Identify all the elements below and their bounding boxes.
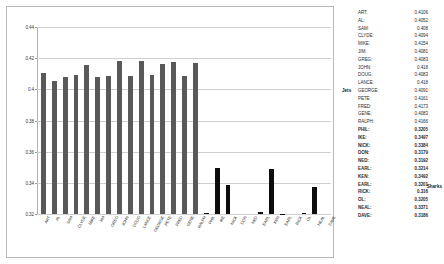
table-row-value: 0.4083 xyxy=(415,110,428,118)
x-label-slot: EARL xyxy=(256,214,267,260)
table-row-name: MIKE: xyxy=(358,40,370,48)
bar-slot xyxy=(136,27,147,214)
table-row-value: 0.418 xyxy=(417,79,428,87)
table-row: OL:0.3205 xyxy=(358,196,428,204)
table-row-value: 0.4091 xyxy=(415,87,428,95)
x-label-slot: AL xyxy=(49,214,60,260)
table-row: ART:0.4106 xyxy=(358,9,428,17)
bar xyxy=(74,75,79,214)
table-row-name: PETE: xyxy=(358,95,371,103)
table-row-name: NED: xyxy=(358,157,369,165)
table-row-value: 0.408 xyxy=(417,25,428,33)
table-row: RICK:0.316 xyxy=(358,188,428,196)
x-label-slot: DOUG xyxy=(125,214,136,260)
chart-panel: 0.440.420.40.380.360.340.32 ARTALSAMCLYD… xyxy=(0,0,340,264)
chart-plot-frame: 0.440.420.40.380.360.340.32 ARTALSAMCLYD… xyxy=(6,6,334,258)
table-row-name: IKE: xyxy=(358,134,367,142)
y-axis-tick-label: 0.32 xyxy=(25,212,34,217)
y-axis-tick-mark xyxy=(35,152,37,153)
y-axis-tick-label: 0.36 xyxy=(25,149,34,154)
bar-slot xyxy=(277,27,288,214)
x-label-slot: PETE xyxy=(158,214,169,260)
x-label-slot: GEORGE xyxy=(147,214,158,260)
x-label-slot: RICK xyxy=(288,214,299,260)
table-row: DAVE:0.3186 xyxy=(358,212,428,220)
table-row-name: DOUG: xyxy=(358,71,373,79)
table-row: PETE:0.4161 xyxy=(358,95,428,103)
table-row-name: JOHN: xyxy=(358,64,371,72)
y-axis-tick-mark xyxy=(35,27,37,28)
y-axis-tick-label: 0.38 xyxy=(25,118,34,123)
x-label-slot: JIM xyxy=(92,214,103,260)
table-row-value: 0.4173 xyxy=(415,103,428,111)
y-axis-tick-label: 0.34 xyxy=(25,180,34,185)
table-row-value: 0.316 xyxy=(417,188,428,196)
x-label-slot: FRED xyxy=(169,214,180,260)
bar-slot xyxy=(309,27,320,214)
table-row: NEAL:0.3371 xyxy=(358,204,428,212)
bar-slot xyxy=(38,27,49,214)
table-row-name: RICK: xyxy=(358,188,370,196)
bar xyxy=(63,77,68,214)
table-row-value: 0.3492 xyxy=(415,173,428,181)
table-row: NED:0.3192 xyxy=(358,157,428,165)
bar-slot xyxy=(71,27,82,214)
x-label-slot: PHIL xyxy=(201,214,212,260)
table-row: JOHN:0.418 xyxy=(358,64,428,72)
table-row: PHIL:0.3205 xyxy=(358,126,428,134)
table-row-name: GEORGE: xyxy=(358,87,379,95)
bar xyxy=(106,76,111,214)
table-row-name: DAVE: xyxy=(358,212,371,220)
y-axis-tick-mark xyxy=(35,214,37,215)
table-row: GREG:0.4083 xyxy=(358,56,428,64)
table-row: SAM:0.408 xyxy=(358,25,428,33)
table-row: JIM:0.4081 xyxy=(358,48,428,56)
bar xyxy=(182,76,187,214)
bar-series-container xyxy=(38,27,331,214)
table-row-name: KEN: xyxy=(358,173,369,181)
bar-chart-with-value-table: 0.440.420.40.380.360.340.32 ARTALSAMCLYD… xyxy=(0,0,444,264)
bar-slot xyxy=(168,27,179,214)
bar xyxy=(84,65,89,214)
table-row: GENE:0.4083 xyxy=(358,110,428,118)
table-row: IKE:0.3497 xyxy=(358,134,428,142)
table-row-name: CLYDE: xyxy=(358,32,374,40)
y-axis-tick-mark xyxy=(35,121,37,122)
y-axis-tick-label: 0.44 xyxy=(25,25,34,30)
x-label-slot: OL xyxy=(299,214,310,260)
bar-slot xyxy=(103,27,114,214)
bar xyxy=(269,169,274,215)
table-row-value: 0.4052 xyxy=(415,17,428,25)
bar-slot xyxy=(244,27,255,214)
table-row: CLYDE:0.4094 xyxy=(358,32,428,40)
bar-slot xyxy=(320,27,331,214)
bar xyxy=(226,185,231,214)
bar xyxy=(312,187,317,214)
table-row-value: 0.3371 xyxy=(415,204,428,212)
table-row-value: 0.3205 xyxy=(415,126,428,134)
bar-slot xyxy=(201,27,212,214)
bar xyxy=(150,75,155,214)
bar-slot xyxy=(212,27,223,214)
x-label-slot: ART xyxy=(38,214,49,260)
table-row-value: 0.3192 xyxy=(415,157,428,165)
table-row: GEORGE:0.4091 xyxy=(358,87,428,95)
table-row-name: GREG: xyxy=(358,56,372,64)
x-label-slot: NEAL xyxy=(310,214,321,260)
table-row-name: EARL: xyxy=(358,165,372,173)
value-table-panel: Jets Sharks ART:0.4106AL:0.4052SAM:0.408… xyxy=(340,0,444,264)
table-row-name: EARL: xyxy=(358,181,372,189)
table-row-value: 0.4106 xyxy=(415,9,428,17)
table-row: DOUG:0.4083 xyxy=(358,71,428,79)
bar-slot xyxy=(114,27,125,214)
table-row-value: 0.3384 xyxy=(415,142,428,150)
x-axis-tick-label: DAVE xyxy=(327,215,336,227)
table-row-name: OL: xyxy=(358,196,366,204)
x-label-slot: NICK xyxy=(223,214,234,260)
bar-slot xyxy=(92,27,103,214)
table-row-value: 0.3214 xyxy=(415,165,428,173)
x-label-slot: DAVE xyxy=(321,214,332,260)
table-row: AL:0.4052 xyxy=(358,17,428,25)
table-row-name: GENE: xyxy=(358,110,372,118)
table-row-name: NICK: xyxy=(358,142,370,150)
